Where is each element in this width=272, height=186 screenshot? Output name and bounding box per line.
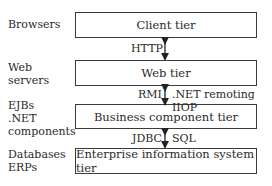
protocol-jdbc: JDBC [132, 132, 162, 145]
protocol-sql: SQL [172, 132, 196, 145]
protocol-http: HTTP [131, 42, 163, 55]
protocol-net-remoting-iiop: .NET remoting IIOP [172, 88, 272, 114]
protocol-rmi: RMI [138, 88, 162, 101]
